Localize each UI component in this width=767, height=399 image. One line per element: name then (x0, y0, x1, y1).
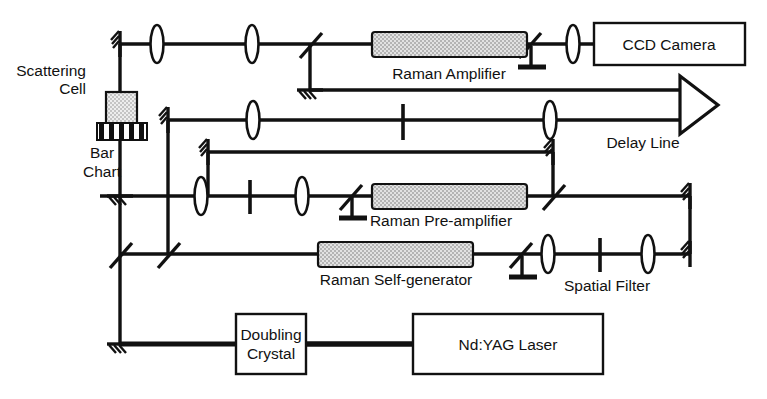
diagram-canvas: CCD Camera Doubling Crystal Nd:YAG Laser… (0, 0, 767, 399)
doubling-crystal-box (236, 314, 306, 374)
doubling-crystal-label-line2: Crystal (247, 345, 295, 362)
raman-preamplifier-rod (372, 184, 527, 209)
lens-spatial-filter-2 (642, 235, 655, 273)
raman-self-generator-label: Raman Self-generator (320, 271, 473, 288)
lens-delayline-1 (247, 101, 260, 139)
ccd-camera-label: CCD Camera (622, 36, 715, 53)
lens-preamp-1 (195, 177, 208, 215)
bar-chart-target (97, 123, 147, 140)
scattering-cell-label-line1: Scattering (16, 62, 86, 79)
lens-spatial-filter-1 (542, 235, 555, 273)
raman-amplifier-label: Raman Amplifier (392, 65, 506, 82)
raman-self-generator-rod (318, 242, 473, 267)
raman-amplifier-rod (372, 32, 527, 57)
bar-chart-label-line1: Bar (90, 144, 114, 161)
raman-preamplifier-label: Raman Pre-amplifier (370, 212, 512, 229)
doubling-crystal-label-line1: Doubling (240, 326, 301, 343)
delay-line-label: Delay Line (606, 134, 679, 151)
lens-delayline-2 (544, 101, 557, 139)
lens-top-2 (246, 25, 259, 63)
lens-top-1 (151, 25, 164, 63)
spatial-filter-label: Spatial Filter (564, 277, 650, 294)
bar-chart-label-line2: Chart (83, 163, 122, 180)
lens-ccd (567, 25, 580, 63)
optical-setup-figure: CCD Camera Doubling Crystal Nd:YAG Laser… (0, 0, 767, 399)
ndyag-laser-label: Nd:YAG Laser (459, 336, 558, 353)
scattering-cell-label-line2: Cell (59, 80, 86, 97)
lens-preamp-2 (296, 177, 309, 215)
